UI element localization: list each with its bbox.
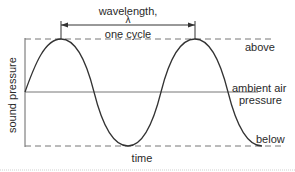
above-label: above: [245, 41, 275, 53]
sound-wave-diagram: wavelength, λ one cycle above ambient ai…: [0, 0, 295, 172]
y-axis-label: sound pressure: [6, 57, 18, 133]
ambient-label-line1: ambient air: [232, 82, 286, 94]
arrow-left-icon: [61, 23, 68, 28]
below-label: below: [256, 133, 285, 145]
lambda-label: λ: [126, 14, 131, 26]
ambient-label-line2: pressure: [239, 94, 282, 106]
one-cycle-label: one cycle: [105, 28, 151, 40]
x-axis-label: time: [132, 152, 153, 164]
arrow-right-icon: [188, 23, 195, 28]
